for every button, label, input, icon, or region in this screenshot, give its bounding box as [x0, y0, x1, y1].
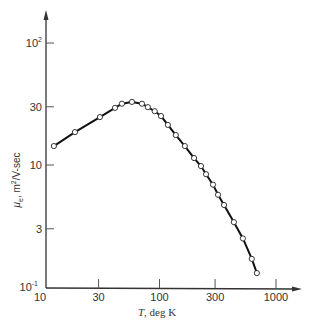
data-point-marker — [97, 114, 102, 119]
x-axis-arrow-icon — [292, 287, 302, 292]
data-point-marker — [152, 109, 157, 114]
data-point-marker — [240, 236, 245, 241]
x-tick-label: 1000 — [264, 291, 288, 303]
data-point-marker — [165, 122, 170, 127]
data-point-marker — [173, 132, 178, 137]
x-axis — [46, 288, 296, 289]
x-ticks: 10301003001000 — [34, 279, 288, 303]
x-axis-title: T, deg K — [138, 306, 176, 318]
data-point-marker — [129, 99, 134, 104]
data-point-marker — [72, 130, 77, 135]
data-series — [51, 99, 259, 275]
data-point-marker — [231, 220, 236, 225]
data-point-marker — [145, 105, 150, 110]
y-axis-arrow-icon — [44, 10, 49, 20]
x-tick-label: 30 — [92, 291, 104, 303]
y-tick-label: 3 — [36, 223, 42, 235]
series-line — [54, 102, 257, 273]
data-point-marker — [221, 202, 226, 207]
x-tick-label: 300 — [206, 291, 224, 303]
data-point-marker — [119, 101, 124, 106]
y-ticks: 10-131030102 — [20, 36, 54, 293]
data-point-marker — [182, 143, 187, 148]
data-point-marker — [203, 172, 208, 177]
axes — [44, 10, 303, 292]
data-point-marker — [215, 192, 220, 197]
data-point-marker — [51, 143, 56, 148]
y-tick-label: 10 — [30, 159, 42, 171]
y-tick-label: 102 — [26, 36, 42, 49]
x-tick-label: 10 — [34, 291, 46, 303]
data-point-marker — [254, 270, 259, 275]
data-point-marker — [158, 113, 163, 118]
mobility-chart: 10-131030102 10301003001000 T, deg K μe,… — [0, 0, 314, 325]
data-point-marker — [198, 163, 203, 168]
y-axis-title: μe, m2/V-sec — [10, 153, 24, 209]
data-point-marker — [191, 155, 196, 160]
y-tick-label: 30 — [30, 101, 42, 113]
data-point-marker — [139, 101, 144, 106]
x-tick-label: 100 — [150, 291, 168, 303]
data-point-marker — [112, 105, 117, 110]
data-point-marker — [210, 182, 215, 187]
data-point-marker — [249, 256, 254, 261]
